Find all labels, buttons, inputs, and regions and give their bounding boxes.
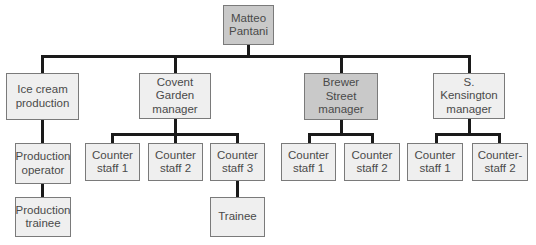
connector-brewer-cs1	[308, 133, 311, 143]
node-covent-trainee: Trainee	[210, 197, 265, 237]
node-ice-cream-production: Ice cream production	[6, 73, 79, 120]
node-kensington-counter-staff-2: Counter- staff 2	[472, 143, 528, 181]
node-production-operator: Production operator	[15, 143, 71, 184]
connector-brewer-cs2	[371, 133, 374, 143]
connector-cs3-to-trainee	[236, 181, 239, 197]
connector-covent-cs2	[174, 133, 177, 143]
connector-kensington-up	[468, 55, 471, 73]
connector-ice-to-operator	[41, 120, 44, 143]
connector-brewer-up	[340, 55, 343, 73]
connector-ice-cream-up	[41, 55, 44, 73]
node-covent-garden-manager: Covent Garden manager	[139, 73, 211, 119]
connector-kensington-cs1	[435, 133, 438, 143]
node-brewer-counter-staff-2: Counter staff 2	[344, 143, 400, 181]
connector-covent-cs1	[111, 133, 114, 143]
node-covent-counter-staff-3: Counter staff 3	[210, 143, 265, 181]
connector-kensington-cs2	[498, 133, 501, 143]
node-production-trainee: Production trainee	[15, 197, 71, 237]
connector-kensington-bar	[435, 133, 501, 136]
node-covent-counter-staff-2: Counter staff 2	[148, 143, 203, 181]
connector-operator-to-trainee	[41, 184, 44, 197]
connector-main-bar	[41, 55, 471, 58]
node-brewer-counter-staff-1: Counter staff 1	[281, 143, 336, 181]
connector-brewer-bar	[308, 133, 374, 136]
node-s-kensington-manager: S. Kensington manager	[433, 73, 505, 119]
node-covent-counter-staff-1: Counter staff 1	[85, 143, 140, 181]
node-matteo-pantani: Matteo Pantani	[223, 5, 274, 45]
connector-covent-up	[174, 55, 177, 73]
connector-covent-cs3	[236, 133, 239, 143]
node-kensington-counter-staff-1: Counter staff 1	[407, 143, 463, 181]
node-brewer-street-manager: Brewer Street manager	[304, 73, 378, 120]
